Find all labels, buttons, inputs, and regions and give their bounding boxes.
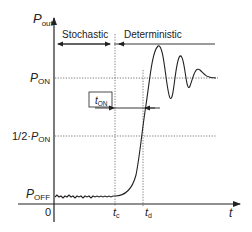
deterministic-label: Deterministic	[124, 29, 182, 40]
y-axis-label: Pout	[33, 11, 54, 28]
p-off-label: POFF	[26, 187, 50, 202]
output-power-curve	[55, 46, 216, 198]
laser-turn-on-diagram: Pout Stochastic Deterministic PON 1/2·PO…	[0, 0, 252, 232]
x-axis-label: t	[229, 206, 233, 220]
origin-label: 0	[45, 206, 51, 218]
p-on-label: PON	[30, 71, 50, 86]
guide-lines	[55, 34, 218, 206]
stochastic-label: Stochastic	[62, 29, 108, 40]
half-p-on-label: 1/2·PON	[12, 130, 51, 144]
tc-label: tc	[113, 206, 120, 219]
axes	[18, 18, 240, 222]
td-label: td	[145, 206, 152, 219]
